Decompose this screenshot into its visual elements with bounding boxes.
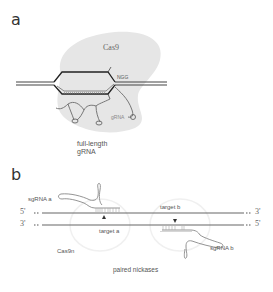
panel-b-caption: paired nickases [113,266,158,273]
target-b-label: target b [160,204,180,210]
bottom-strand-5prime: 5' [255,219,260,228]
nick-a-arrow-icon [102,215,106,219]
sgrna-a-label: sgRNA a [28,196,52,202]
sgrna-b-label: sgRNA b [210,245,234,251]
cas9n-label: Cas9n [57,248,74,254]
top-strand-5prime: 5' [20,207,25,216]
nick-b-arrow-icon [173,219,177,223]
target-a-label: target a [99,228,119,234]
bottom-strand-3prime: 3' [20,219,25,228]
top-strand-3prime: 3' [255,207,260,216]
sgrna-a-shape [58,183,120,208]
